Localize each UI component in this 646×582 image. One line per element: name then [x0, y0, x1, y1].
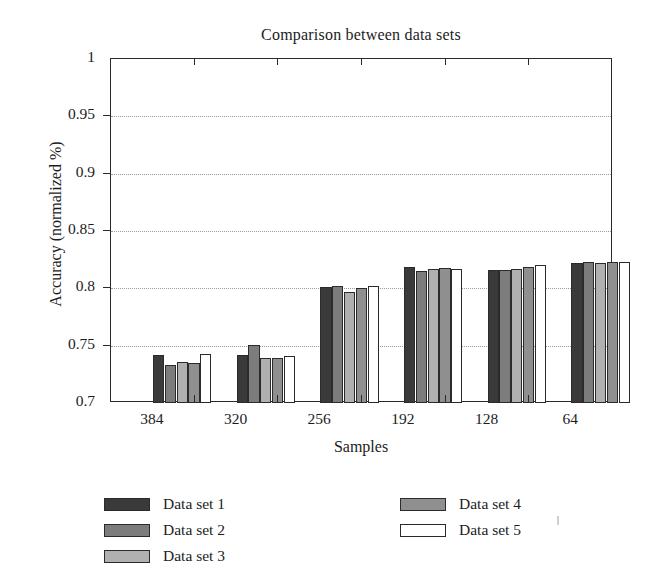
- y-tick-label: 0.95: [68, 105, 95, 123]
- chart-title: Comparison between data sets: [110, 26, 612, 44]
- x-tick-mark: [528, 395, 529, 402]
- y-tick-label: 0.85: [68, 220, 95, 238]
- bar: [439, 268, 450, 403]
- bar: [499, 270, 510, 403]
- y-tick-mark: [103, 173, 110, 174]
- bar: [619, 262, 630, 403]
- legend-swatch: [104, 498, 150, 511]
- bar: [595, 263, 606, 403]
- bar: [165, 365, 176, 403]
- gridline: [111, 231, 611, 232]
- scan-artifact: [557, 516, 559, 525]
- legend-swatch: [400, 524, 446, 537]
- x-axis-label: Samples: [110, 438, 612, 456]
- legend-label: Data set 4: [459, 495, 521, 513]
- bar: [571, 263, 582, 403]
- bar: [153, 355, 164, 403]
- bar: [344, 292, 355, 403]
- bar: [416, 271, 427, 403]
- x-tick-mark-top: [194, 58, 195, 65]
- legend-label: Data set 2: [163, 521, 225, 539]
- bar: [368, 286, 379, 403]
- x-tick-mark: [361, 395, 362, 402]
- y-axis-label: Accuracy (normalized %): [47, 59, 65, 389]
- bar: [260, 358, 271, 403]
- bar: [607, 262, 618, 403]
- bar: [404, 267, 415, 403]
- x-tick-mark-top: [277, 58, 278, 65]
- bar: [332, 286, 343, 403]
- gridline: [111, 116, 611, 117]
- legend-item: Data set 1: [104, 494, 225, 514]
- bar: [488, 270, 499, 403]
- legend-label: Data set 3: [163, 547, 225, 565]
- bar: [451, 269, 462, 403]
- bar: [177, 362, 188, 403]
- bar: [200, 354, 211, 403]
- bar: [523, 267, 534, 403]
- x-tick-mark: [445, 395, 446, 402]
- x-tick-mark: [277, 395, 278, 402]
- bar: [535, 265, 546, 403]
- x-tick-mark: [194, 395, 195, 402]
- legend-label: Data set 5: [459, 521, 521, 539]
- legend-swatch: [104, 550, 150, 563]
- legend-item: Data set 4: [400, 494, 521, 514]
- bar: [428, 269, 439, 403]
- y-tick-label: 1: [87, 48, 95, 66]
- y-tick-mark: [103, 230, 110, 231]
- x-tick-label: 384: [122, 410, 182, 428]
- y-tick-mark: [103, 345, 110, 346]
- legend-item: Data set 5: [400, 520, 521, 540]
- x-tick-label: 192: [373, 410, 433, 428]
- bar: [356, 288, 367, 403]
- legend-item: Data set 2: [104, 520, 225, 540]
- x-tick-label: 256: [289, 410, 349, 428]
- bar: [284, 356, 295, 403]
- plot-area: [110, 58, 612, 402]
- legend: Data set 1Data set 2Data set 3Data set 4…: [104, 494, 564, 574]
- x-tick-mark-top: [528, 58, 529, 65]
- y-tick-label: 0.75: [68, 335, 95, 353]
- gridline: [111, 174, 611, 175]
- bar: [511, 269, 522, 403]
- bar: [237, 355, 248, 403]
- x-tick-label: 64: [540, 410, 600, 428]
- bar: [320, 287, 331, 403]
- x-tick-mark-top: [361, 58, 362, 65]
- legend-item: Data set 3: [104, 546, 225, 566]
- bar: [583, 262, 594, 403]
- x-tick-mark-top: [445, 58, 446, 65]
- legend-label: Data set 1: [163, 495, 225, 513]
- legend-swatch: [104, 524, 150, 537]
- bar-chart-figure: Comparison between data sets 0.70.750.80…: [0, 0, 646, 582]
- x-tick-label: 320: [206, 410, 266, 428]
- y-tick-mark: [103, 115, 110, 116]
- y-tick-label: 0.9: [76, 163, 95, 181]
- y-tick-label: 0.7: [76, 392, 95, 410]
- y-tick-label: 0.8: [76, 277, 95, 295]
- x-tick-label: 128: [457, 410, 517, 428]
- y-tick-mark: [103, 287, 110, 288]
- legend-swatch: [400, 498, 446, 511]
- bar: [248, 345, 259, 403]
